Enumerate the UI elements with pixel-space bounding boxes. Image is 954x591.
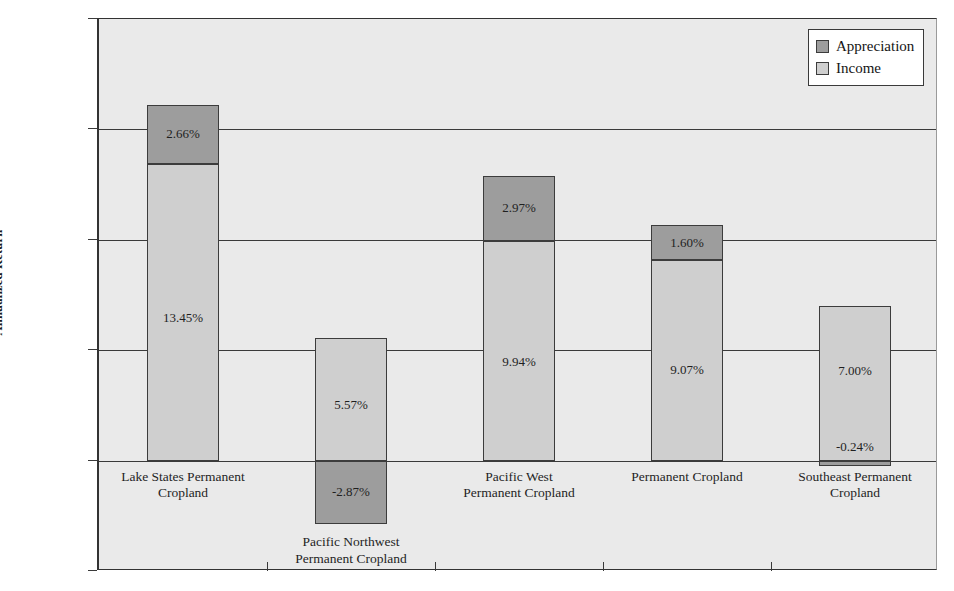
gridline	[99, 129, 936, 130]
category-label-line: Pacific West	[429, 469, 609, 486]
bar-segment-income	[651, 260, 723, 460]
y-axis-tick-mark	[88, 349, 97, 350]
category-label-line: Pacific Northwest	[261, 534, 441, 551]
category-label-line: Permanent Cropland	[429, 485, 609, 502]
category-label-line: Cropland	[765, 485, 945, 502]
x-axis-tick-mark	[771, 562, 772, 571]
y-axis-tick-mark	[88, 460, 97, 461]
y-axis-title: Annualized Return	[0, 230, 6, 336]
legend-label: Appreciation	[836, 38, 914, 55]
x-axis-category-label: Pacific NorthwestPermanent Cropland	[261, 534, 441, 568]
chart-root: Annualized Return 20.00%15.00%10.00%5.00…	[0, 0, 954, 591]
y-axis-tick-mark	[88, 128, 97, 129]
y-axis-tick-mark	[88, 18, 97, 19]
category-label-line: Southeast Permanent	[765, 469, 945, 486]
x-axis-category-label: Permanent Cropland	[597, 469, 777, 486]
category-label-line: Cropland	[93, 485, 273, 502]
x-axis-category-label: Southeast PermanentCropland	[765, 469, 945, 503]
gridline	[99, 461, 936, 462]
bar-value-label-appreciation: 1.60%	[651, 235, 723, 251]
bar-segment-income	[483, 241, 555, 460]
bar-value-label-income: 5.57%	[315, 397, 387, 413]
y-axis-tick-mark	[88, 570, 97, 571]
bar-segment-income	[819, 306, 891, 461]
bar-value-label-appreciation: -2.87%	[315, 484, 387, 500]
plot-area: 13.45%2.66%5.57%-2.87%9.94%2.97%9.07%1.6…	[97, 18, 937, 570]
x-axis-tick-mark	[603, 562, 604, 571]
plot-inner: 13.45%2.66%5.57%-2.87%9.94%2.97%9.07%1.6…	[99, 19, 936, 569]
bar-value-label-income: 7.00%	[819, 363, 891, 379]
category-label-line: Lake States Permanent	[93, 469, 273, 486]
legend-swatch-icon	[816, 62, 829, 75]
legend-label: Income	[836, 60, 881, 77]
x-axis-category-label: Lake States PermanentCropland	[93, 469, 273, 503]
legend-swatch-icon	[816, 40, 829, 53]
bar-value-label-income: 9.07%	[651, 362, 723, 378]
bar-value-label-income: 9.94%	[483, 354, 555, 370]
bar-value-label-income: 13.45%	[147, 310, 219, 326]
category-label-line: Permanent Cropland	[261, 551, 441, 568]
legend-item: Appreciation	[816, 35, 914, 57]
bar-value-label-appreciation: 2.66%	[147, 126, 219, 142]
bar-value-label-appreciation: -0.24%	[819, 439, 891, 455]
chart-legend: AppreciationIncome	[808, 29, 924, 86]
x-axis-category-label: Pacific WestPermanent Cropland	[429, 469, 609, 503]
legend-item: Income	[816, 57, 914, 79]
bar-segment-appreciation	[819, 461, 891, 466]
bar-value-label-appreciation: 2.97%	[483, 200, 555, 216]
y-axis-tick-mark	[88, 239, 97, 240]
category-label-line: Permanent Cropland	[597, 469, 777, 486]
